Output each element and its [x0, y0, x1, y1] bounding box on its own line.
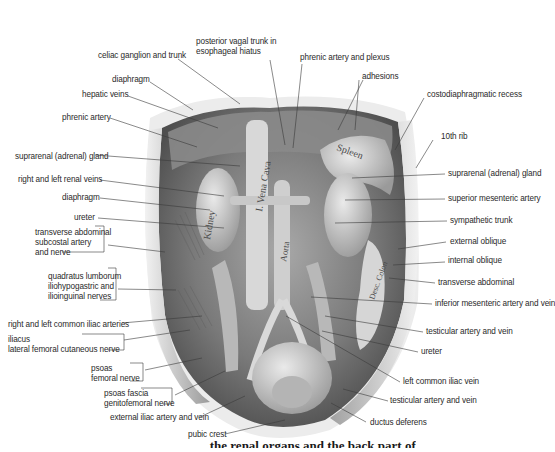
label-costodiaphragmatic-recess: costodiaphragmatic recess: [427, 90, 522, 100]
label-external-oblique: external oblique: [450, 237, 506, 247]
label-transverse-abdominal: transverse abdominal: [438, 278, 514, 288]
label-celiac-ganglion: celiac ganglion and trunk: [98, 51, 186, 61]
label-psoas-group: psoas femoral nerve: [91, 364, 140, 384]
label-phrenic-artery: phrenic artery: [62, 113, 111, 123]
label-posterior-vagal-trunk: posterior vagal trunk in esophageal hiat…: [196, 37, 276, 57]
kidney-left-shape: [324, 173, 372, 257]
label-iliacus-group: iliacus lateral femoral cutaneous nerve: [8, 335, 120, 355]
label-sympathetic-trunk: sympathetic trunk: [450, 216, 512, 226]
label-hepatic-veins: hepatic veins: [82, 90, 129, 100]
label-psoas-fascia-group: psoas fascia genitofemoral nerve: [104, 389, 174, 409]
label-superior-mesenteric: superior mesenteric artery: [448, 194, 541, 204]
label-diaphragm-lower: diaphragm: [62, 193, 100, 203]
label-external-iliac: external iliac artery and vein: [110, 413, 209, 423]
label-phrenic-artery-plexus: phrenic artery and plexus: [300, 53, 389, 63]
label-adhesions: adhesions: [362, 72, 398, 82]
label-10th-rib: 10th rib: [441, 132, 468, 142]
label-suprarenal-gland-right: suprarenal (adrenal) gland: [448, 169, 541, 179]
label-internal-oblique: internal oblique: [448, 256, 502, 266]
label-ureter-right: ureter: [421, 347, 442, 357]
vena-cava-shape: [246, 120, 268, 310]
label-common-iliac-arteries: right and left common iliac arteries: [8, 320, 129, 330]
label-quadratus-lumborum-group: quadratus lumborum iliohypogastric and i…: [48, 272, 121, 302]
label-testicular-lower: testicular artery and vein: [390, 396, 477, 406]
label-testicular-upper: testicular artery and vein: [426, 327, 513, 337]
label-ureter-left: ureter: [74, 213, 95, 223]
label-diaphragm-upper: diaphragm: [112, 75, 150, 85]
label-inferior-mesenteric: inferior mesenteric artery and vein: [435, 299, 555, 309]
label-suprarenal-gland-left: suprarenal (adrenal) gland: [15, 152, 108, 162]
label-ductus-deferens: ductus deferens: [370, 418, 427, 428]
label-left-common-iliac-vein: left common iliac vein: [403, 377, 479, 387]
figure-caption-partial: ...the renal organs and the back part of: [200, 438, 416, 448]
label-renal-veins: right and left renal veins: [18, 175, 102, 185]
label-transverse-subcostal-group: transverse abdominal subcostal artery an…: [35, 228, 111, 258]
